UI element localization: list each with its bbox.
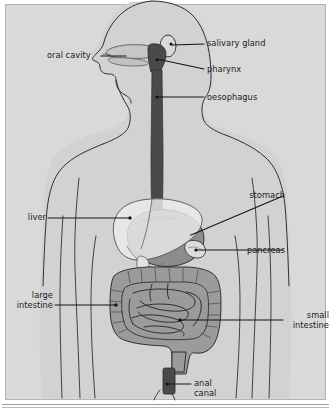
label-large-intestine[interactable]: large intestine xyxy=(4,291,53,310)
digestive-system-diagram xyxy=(0,0,331,418)
organ-oesophagus[interactable] xyxy=(151,70,163,212)
label-stomach[interactable]: stomach xyxy=(225,191,285,201)
organ-small-intestine[interactable] xyxy=(124,283,207,338)
label-salivary-gland[interactable]: salivary gland xyxy=(207,39,265,49)
anal-canal-shape xyxy=(163,368,175,394)
label-oesophagus[interactable]: oesophagus xyxy=(207,93,257,103)
label-pancreas[interactable]: pancreas xyxy=(225,246,285,256)
label-anal-canal[interactable]: anal canal xyxy=(194,379,216,398)
label-small-intestine[interactable]: small intestine xyxy=(285,311,329,330)
label-pharynx[interactable]: pharynx xyxy=(207,65,241,75)
label-liver[interactable]: liver xyxy=(8,213,46,223)
oesophagus-shape xyxy=(151,70,163,212)
label-oral-cavity[interactable]: oral cavity xyxy=(47,51,91,61)
figure-page: oral cavity salivary gland pharynx oesop… xyxy=(0,0,331,418)
